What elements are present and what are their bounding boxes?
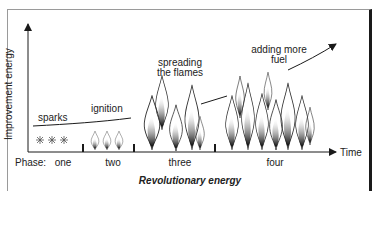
ignition-flame-icons	[91, 131, 123, 150]
phase-four: four	[255, 157, 295, 168]
annotation-sparks: sparks	[38, 112, 67, 123]
phase-label: Phase:	[15, 157, 46, 168]
spreading-flame-icons	[144, 75, 204, 151]
annotation-fuel-line2: fuel	[244, 54, 314, 65]
phase-three: three	[160, 157, 200, 168]
phase-dividers	[83, 144, 215, 152]
x-axis-label: Time	[340, 147, 362, 158]
annotation-spreading-line2: the flames	[150, 67, 210, 78]
y-axis-label: Improvement energy	[3, 48, 14, 140]
diagram-caption: Revolutionary energy	[0, 175, 380, 186]
phase-two: two	[98, 157, 128, 168]
phase-one: one	[48, 157, 78, 168]
spark-icons	[36, 136, 68, 144]
annotation-ignition: ignition	[91, 103, 123, 114]
fuel-flame-icons	[226, 72, 315, 150]
